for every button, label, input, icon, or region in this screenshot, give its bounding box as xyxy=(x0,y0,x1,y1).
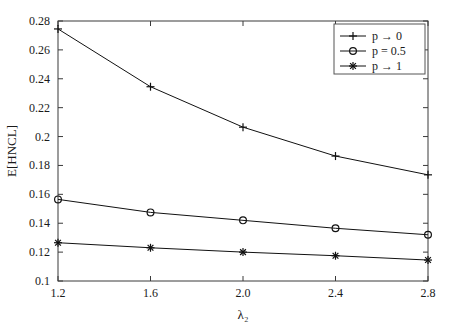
y-tick-label: 0.1 xyxy=(35,274,50,288)
x-axis-title: λ₂ xyxy=(238,307,249,322)
y-axis-title: E[HNCL] xyxy=(4,125,19,177)
x-tick-label: 1.2 xyxy=(51,286,66,300)
y-tick-label: 0.22 xyxy=(29,101,50,115)
chart-figure: 0.10.120.140.160.180.20.220.240.260.281.… xyxy=(0,0,459,323)
y-tick-label: 0.2 xyxy=(35,130,50,144)
y-tick-label: 0.14 xyxy=(29,216,50,230)
x-tick-label: 2.4 xyxy=(328,286,343,300)
series-circle xyxy=(55,196,432,238)
legend: p → 0p = 0.5p → 1 xyxy=(334,24,425,74)
x-tick-label: 2.8 xyxy=(421,286,436,300)
legend-label: p = 0.5 xyxy=(372,44,406,58)
y-tick-label: 0.16 xyxy=(29,187,50,201)
line-chart: 0.10.120.140.160.180.20.220.240.260.281.… xyxy=(0,0,459,323)
y-tick-label: 0.18 xyxy=(29,158,50,172)
legend-label: p → 1 xyxy=(372,59,402,73)
x-tick-label: 2.0 xyxy=(236,286,251,300)
series-asterisk xyxy=(54,239,432,264)
y-tick-label: 0.26 xyxy=(29,43,50,57)
y-tick-label: 0.28 xyxy=(29,14,50,28)
y-tick-label: 0.24 xyxy=(29,72,50,86)
y-tick-label: 0.12 xyxy=(29,245,50,259)
legend-label: p → 0 xyxy=(372,29,402,43)
x-tick-label: 1.6 xyxy=(143,286,158,300)
